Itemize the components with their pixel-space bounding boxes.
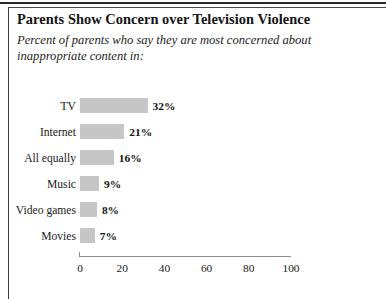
x-axis-tick-label: 40 [159,262,170,275]
bar [80,176,99,191]
bar-category-label: Movies [0,230,76,244]
bar-row: All equally16% [0,149,386,175]
cut-off-caption [17,289,369,299]
bar-row: Movies7% [0,227,386,253]
bar-row: Internet21% [0,123,386,149]
bar [80,150,114,165]
x-axis-tick-label: 100 [282,262,299,275]
bar-chart: TV32%Internet21%All equally16%Music9%Vid… [0,0,386,299]
x-axis-tick-label: 80 [243,262,254,275]
bar-value-label: 9% [104,177,121,191]
bar-row: Music9% [0,175,386,201]
x-axis-tick-label: 60 [201,262,212,275]
bar-category-label: Music [0,178,76,192]
bar-row: TV32% [0,97,386,123]
bar-category-label: TV [0,100,76,114]
bar-row: Video games8% [0,201,386,227]
bar-value-label: 8% [102,203,119,217]
bar [80,124,124,139]
bar-value-label: 21% [129,125,152,139]
x-axis-tick-label: 20 [116,262,127,275]
figure-panel: Parents Show Concern over Television Vio… [0,0,386,299]
bar [80,202,97,217]
bar-value-label: 16% [119,151,142,165]
x-axis-tick-label: 0 [77,262,83,275]
bar-category-label: Internet [0,126,76,140]
bar-value-label: 32% [153,99,176,113]
bar-category-label: All equally [0,152,76,166]
bar-value-label: 7% [100,229,117,243]
bar-category-label: Video games [0,204,76,218]
bar [80,98,148,113]
bar [80,228,95,243]
x-axis-line [79,256,291,257]
